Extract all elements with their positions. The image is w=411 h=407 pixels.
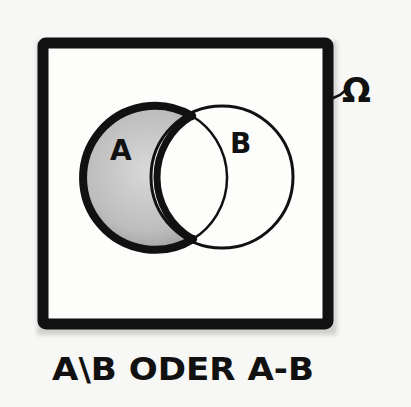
set-b-label: B [230, 127, 251, 160]
set-a-label: A [110, 134, 132, 167]
omega-label: Ω [342, 70, 371, 110]
caption: A\B ODER A-B [52, 350, 314, 388]
venn-diagram: Ω A B A\B ODER A-B [0, 0, 411, 407]
